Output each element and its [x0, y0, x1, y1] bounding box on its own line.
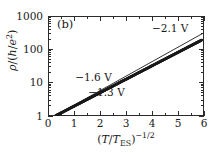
y-tick-label: 1000 — [16, 11, 43, 22]
x-axis-title: (T/TES)−1/2 — [48, 132, 204, 148]
annotation-voltage-1-6v: −1.6 V — [75, 72, 111, 83]
figure-panel-b: (b) 11010010000123456 ρ/(h/e2) (T/TES)−1… — [0, 0, 220, 153]
y-axis-title: ρ/(h/e2) — [6, 14, 19, 86]
annotation-voltage-2-1v: −2.1 V — [152, 23, 188, 34]
y-axis-e: e — [6, 39, 19, 46]
y-axis-open-paren: ( — [6, 56, 19, 60]
y-tick-label: 10 — [30, 77, 43, 88]
x-axis-exponent: −1/2 — [135, 131, 154, 140]
x-tick-label: 3 — [118, 118, 134, 129]
y-axis-symbol: ρ — [6, 64, 19, 70]
data-point — [200, 39, 203, 42]
y-axis-slash: / — [6, 61, 19, 65]
x-axis-numerator: T — [102, 133, 109, 146]
y-axis-exponent: 2 — [5, 34, 14, 39]
y-axis-h: h — [6, 49, 19, 56]
x-tick-label: 1 — [66, 118, 82, 129]
x-tick-label: 5 — [170, 118, 186, 129]
x-tick-label: 6 — [196, 118, 212, 129]
x-axis-denominator-subscript: ES — [120, 139, 131, 148]
x-tick-label: 2 — [92, 118, 108, 129]
y-axis-close-paren: ) — [6, 30, 19, 34]
y-tick-label: 100 — [23, 44, 43, 55]
annotation-voltage-1-3v: −1.3 V — [88, 87, 124, 98]
x-tick-label: 0 — [40, 118, 56, 129]
y-axis-inner-slash: / — [6, 46, 19, 50]
x-axis-denominator: T — [113, 133, 120, 146]
x-tick-label: 4 — [144, 118, 160, 129]
